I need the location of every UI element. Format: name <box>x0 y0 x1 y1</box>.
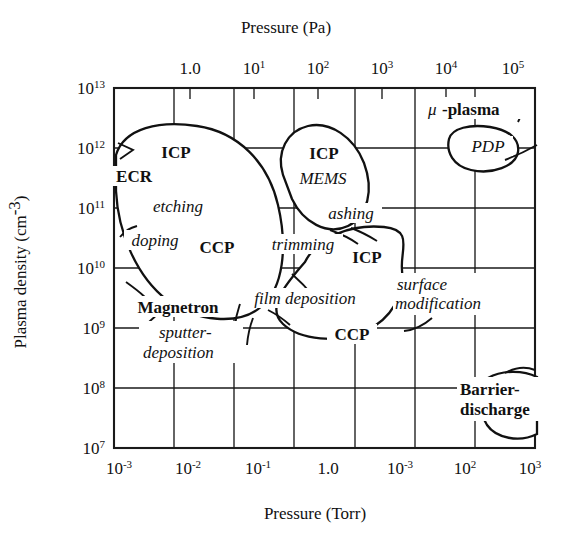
label-group-barrier-discharge: Barrier- discharge <box>457 377 567 421</box>
label-group-ashing: ashing <box>320 203 382 223</box>
label-pdp: PDP <box>470 137 504 156</box>
label-group-doping: doping <box>124 230 186 250</box>
label-group-magnetron: Magnetron <box>122 296 234 317</box>
leader-ccp-right <box>404 318 432 331</box>
label-group-mu-plasma: μ -plasma <box>424 97 532 119</box>
bottom-tick-2: 10-1 <box>245 458 271 478</box>
label-trimming: trimming <box>272 235 334 254</box>
label-surface-line1: surface <box>397 275 448 294</box>
left-tick-5: 108 <box>83 378 106 398</box>
label-magnetron: Magnetron <box>138 298 219 317</box>
plasma-regime-figure: Pressure (Pa) 1.0 101 102 103 104 105 <box>0 0 572 546</box>
left-tick-0: 1013 <box>77 78 106 98</box>
label-film-deposition: film deposition <box>254 289 356 308</box>
label-group-ccp-left: CCP <box>192 237 242 257</box>
bottom-tick-4: 10-3 <box>387 458 414 478</box>
bottom-tick-1: 10-2 <box>175 458 201 478</box>
bottom-tick-3: 1.0 <box>317 459 338 478</box>
label-group-film-deposition: film deposition <box>243 288 367 308</box>
left-tick-6: 107 <box>83 438 106 458</box>
top-tick-labels: 1.0 101 102 103 104 105 <box>179 58 524 78</box>
left-tick-1: 1012 <box>77 138 105 158</box>
label-mems: MEMS <box>298 169 347 188</box>
label-ecr: ECR <box>116 167 153 186</box>
label-mu-symbol: μ <box>427 100 437 119</box>
label-mu-plasma-text: -plasma <box>442 100 500 119</box>
top-axis-title: Pressure (Pa) <box>241 18 331 37</box>
left-axis-title: Plasma density (cm-3) <box>5 196 30 349</box>
leader-ccp-left-2 <box>247 318 253 345</box>
label-group-icp-right: ICP <box>344 247 390 267</box>
label-group-pdp: PDP <box>463 136 513 156</box>
label-etching: etching <box>153 197 203 216</box>
bottom-tick-0: 10-3 <box>106 458 133 478</box>
top-tick-3: 103 <box>371 58 394 78</box>
label-icp-main: ICP <box>161 143 190 162</box>
label-ccp-right: CCP <box>335 325 370 344</box>
bottom-tick-5: 102 <box>454 458 477 478</box>
label-surface-line2: modification <box>395 294 481 313</box>
left-tick-labels: 1013 1012 1011 1010 109 108 107 <box>77 78 106 458</box>
label-group-icp-mems: ICP <box>301 143 347 163</box>
label-barrier-line2: discharge <box>460 400 530 419</box>
top-tick-1: 101 <box>243 58 266 78</box>
left-tick-2: 1011 <box>77 198 105 218</box>
bottom-axis-title: Pressure (Torr) <box>264 504 366 523</box>
label-group-surface-modification: surface modification <box>393 273 505 315</box>
label-group-ccp-right: CCP <box>327 324 377 344</box>
label-icp-right: ICP <box>352 248 381 267</box>
label-group-ecr: ECR <box>108 166 160 186</box>
label-icp-mems: ICP <box>309 144 338 163</box>
label-doping: doping <box>131 231 178 250</box>
plasma-density-pressure-chart: Pressure (Pa) 1.0 101 102 103 104 105 <box>0 0 572 546</box>
label-group-etching: etching <box>145 196 211 216</box>
label-ashing: ashing <box>328 204 373 223</box>
top-tick-0: 1.0 <box>179 59 200 78</box>
top-tickmarks <box>190 88 446 99</box>
label-group-sputter-deposition: sputter- deposition <box>139 321 243 363</box>
left-tick-3: 1010 <box>77 258 106 278</box>
label-sputter-line1: sputter- <box>159 323 212 342</box>
bottom-tick-labels: 10-3 10-2 10-1 1.0 10-3 102 103 <box>106 458 542 478</box>
label-ccp-left: CCP <box>200 238 235 257</box>
label-barrier-line1: Barrier- <box>460 380 520 399</box>
label-sputter-line2: deposition <box>143 343 214 362</box>
label-group-trimming: trimming <box>263 234 343 254</box>
left-tick-4: 109 <box>83 318 106 338</box>
label-group-icp-main: ICP <box>153 142 199 162</box>
top-tick-5: 105 <box>502 58 525 78</box>
top-tick-4: 104 <box>435 58 458 78</box>
top-tick-2: 102 <box>307 58 330 78</box>
label-group-mems: MEMS <box>292 168 354 188</box>
bottom-tick-6: 103 <box>519 458 542 478</box>
